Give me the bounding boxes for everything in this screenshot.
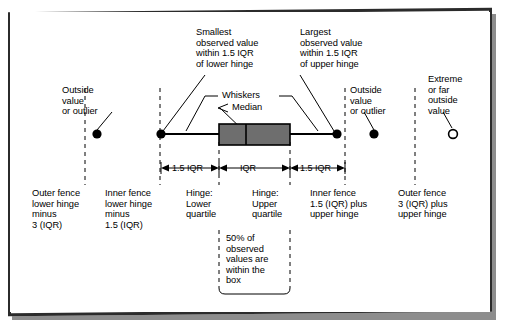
- callout-median: Median: [232, 102, 262, 113]
- leader-largest: [300, 75, 334, 131]
- callout-smallest-observed-value: Smallest observed value within 1.5 IQR o…: [196, 27, 258, 69]
- leader-smallest: [163, 75, 205, 131]
- outlier-right-marker: [369, 129, 378, 138]
- label-inner-fence-lower: Inner fence lower hinge minus 1.5 (IQR): [105, 188, 152, 230]
- measure-label-iqr: IQR: [240, 163, 256, 173]
- whisker-end-right-marker: [332, 129, 341, 138]
- boxplot-box: [219, 124, 290, 145]
- outlier-left-marker: [92, 129, 101, 138]
- whisker-end-left-marker: [156, 129, 165, 138]
- extreme-right-marker: [449, 130, 458, 139]
- callout-largest-observed-value: Largest observed value within 1.5 IQR of…: [300, 27, 362, 69]
- measure-label-lower-1p5-iqr: 1.5 IQR: [172, 163, 203, 173]
- leader-outside-left: [97, 112, 112, 130]
- label-inner-fence-upper: Inner fence 1.5 (IQR) plus upper hinge: [310, 188, 367, 220]
- label-outer-fence-lower: Outer fence lower hinge minus 3 (IQR): [32, 188, 80, 230]
- leader-whiskers-r2: [292, 96, 318, 131]
- bracket-note-fifty-percent: 50% of observed values are within the bo…: [226, 233, 268, 286]
- label-hinge-lower-quartile: Hinge: Lower quartile: [186, 188, 216, 220]
- label-hinge-upper-quartile: Hinge: Upper quartile: [252, 188, 282, 220]
- leader-whiskers-l2: [186, 96, 205, 131]
- box-rect: [219, 124, 290, 145]
- callout-outside-value-right: Outside value or outlier: [350, 85, 386, 117]
- callout-outside-value-left: Outside value or outlier: [62, 85, 98, 117]
- bracket-bottom: [219, 288, 290, 294]
- boxplot-anatomy-figure: Outside value or outlier Smallest observ…: [0, 0, 508, 329]
- measure-label-upper-1p5-iqr: 1.5 IQR: [300, 163, 331, 173]
- callout-extreme-value: Extreme or far outside value: [428, 74, 462, 116]
- label-outer-fence-upper: Outer fence 3 (IQR) plus upper hinge: [398, 188, 448, 220]
- callout-whiskers: Whiskers: [222, 90, 260, 101]
